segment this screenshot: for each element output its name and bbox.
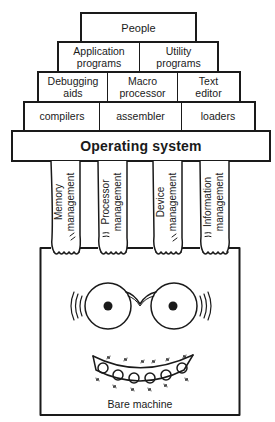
arm-memory-line1: Memory <box>53 162 65 242</box>
arm-processor-line1: Processor <box>100 162 112 242</box>
bare-machine-box <box>41 248 240 415</box>
arm-memory-line2: management <box>65 162 77 242</box>
arm-information-line2: management <box>214 162 226 242</box>
arm-label-device: Device management <box>155 162 179 242</box>
illustration <box>0 0 275 422</box>
arm-processor-line2: management <box>112 162 124 242</box>
arm-label-processor: Processor management <box>100 162 124 242</box>
arm-label-information: Information management <box>202 162 226 242</box>
arm-device-line2: management <box>167 162 179 242</box>
arm-information-line1: Information <box>202 162 214 242</box>
arm-label-memory: Memory management <box>53 162 77 242</box>
bare-machine-label: Bare machine <box>40 398 240 410</box>
arm-device-line1: Device <box>155 162 167 242</box>
